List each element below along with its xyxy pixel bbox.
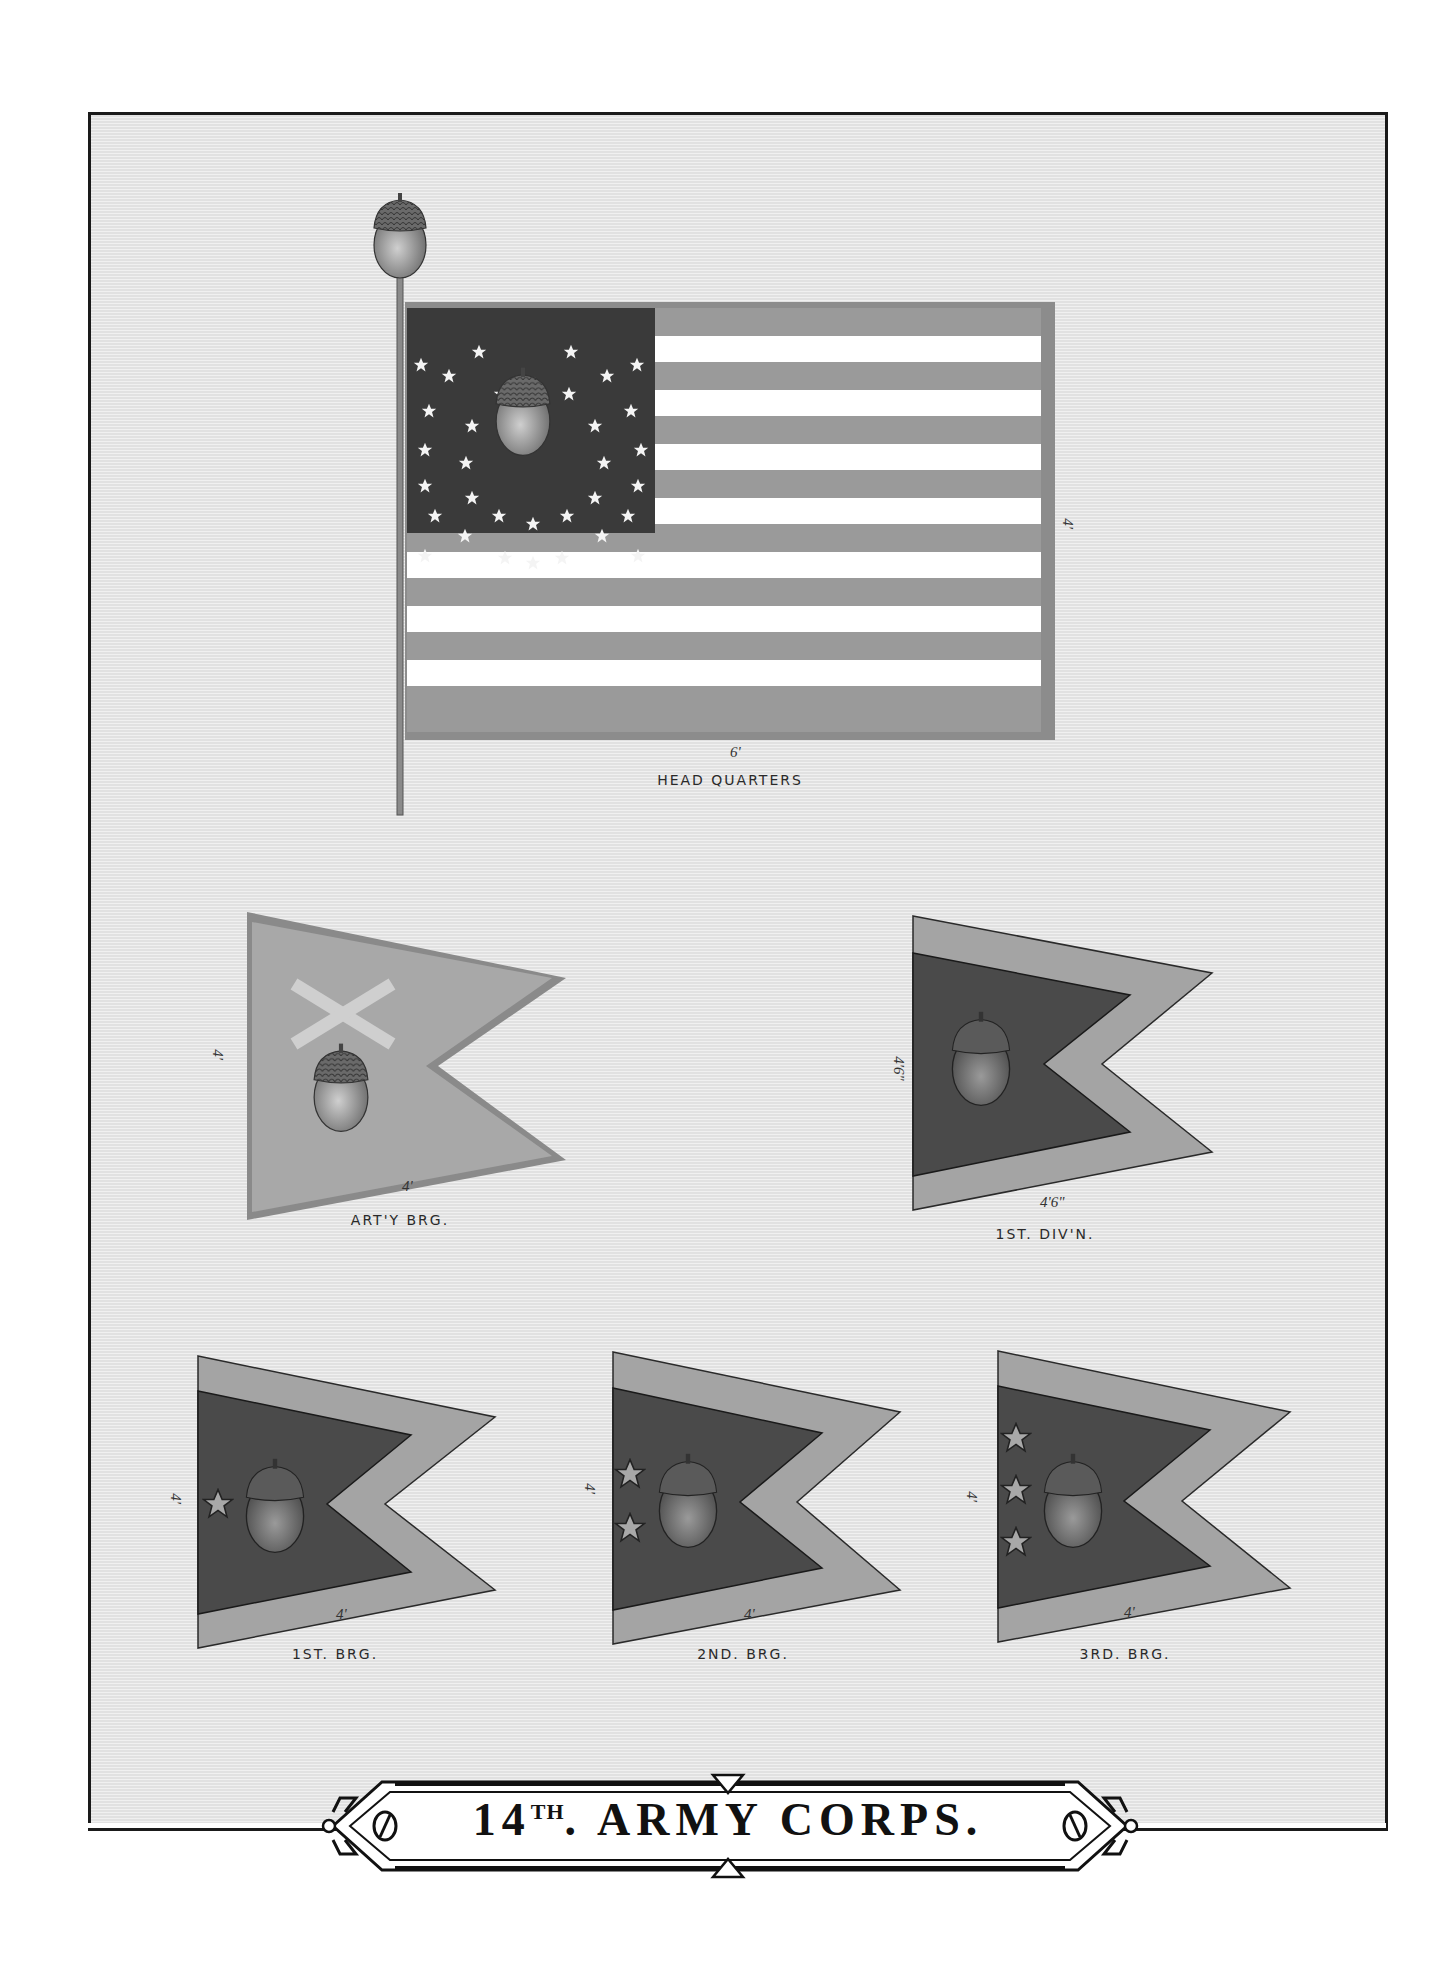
flag-label-2nd-brigade: 2ND. BRG.: [668, 1646, 818, 1662]
1st-brigade-pennant: [198, 1356, 495, 1648]
2nd-brigade-pennant: [613, 1352, 900, 1644]
hq-width-dimension: 6': [730, 744, 741, 761]
arty-height-dimension: 4': [209, 1049, 226, 1060]
3rd-brigade-pennant: [998, 1351, 1290, 1642]
1st-div-width-dimension: 4'6": [1040, 1194, 1065, 1211]
flag-label-1st-brigade: 1ST. BRG.: [260, 1646, 410, 1662]
1st-div-height-dimension: 4'6": [890, 1056, 907, 1081]
2nd-brg-width-dimension: 4': [744, 1606, 755, 1623]
3rd-brg-width-dimension: 4': [1124, 1604, 1135, 1621]
title-suffix: TH: [531, 1799, 565, 1824]
plate-title: 14TH. ARMY CORPS.: [0, 1797, 1456, 1843]
1st-division-pennant: [913, 916, 1212, 1210]
artillery-brigade-guidon: [247, 912, 566, 1220]
title-number: 14: [473, 1794, 531, 1845]
3rd-brg-height-dimension: 4': [963, 1491, 980, 1502]
2nd-brg-height-dimension: 4': [581, 1483, 598, 1494]
flag-label-1st-division: 1ST. DIV'N.: [970, 1226, 1120, 1242]
arty-width-dimension: 4': [402, 1178, 413, 1195]
flag-label-artillery-brigade: ART'Y BRG.: [310, 1212, 490, 1228]
flag-label-headquarters: HEAD QUARTERS: [600, 772, 860, 788]
hq-height-dimension: 4': [1059, 518, 1076, 529]
title-text: . ARMY CORPS.: [565, 1794, 984, 1845]
1st-brg-width-dimension: 4': [336, 1606, 347, 1623]
flag-illustrations: [0, 0, 1456, 1973]
flag-label-3rd-brigade: 3RD. BRG.: [1050, 1646, 1200, 1662]
headquarters-flag: [374, 193, 1055, 815]
finial-acorn-icon: [374, 193, 426, 278]
1st-brg-height-dimension: 4': [167, 1493, 184, 1504]
